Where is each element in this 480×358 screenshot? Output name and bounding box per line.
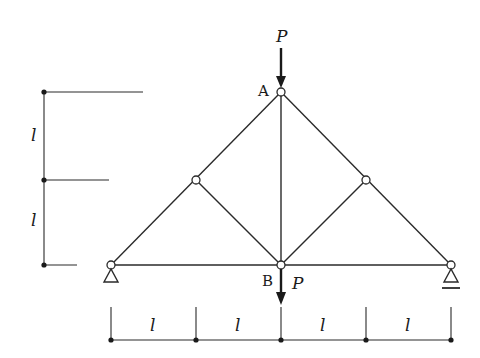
node-A-label: A [257, 82, 269, 100]
load-bottom-label: P [291, 273, 304, 293]
roller-support-icon [444, 269, 458, 282]
horizontal-dimension [111, 307, 451, 340]
truss-diagram: P A B P l l l l l l [0, 0, 480, 358]
dim-horizontal-1: l [150, 315, 155, 335]
dim-horizontal-2: l [235, 315, 240, 335]
load-bottom [276, 269, 286, 305]
dim-horizontal-3: l [320, 315, 325, 335]
joint-B [277, 261, 285, 269]
dim-vertical-2: l [31, 210, 36, 230]
load-top [276, 48, 286, 88]
arrow-down-icon [276, 76, 286, 88]
joint-right-mid [362, 176, 370, 184]
left-diagonal [196, 180, 281, 265]
load-top-label: P [275, 26, 288, 46]
node-B-label: B [262, 272, 273, 290]
dim-horizontal-4: l [405, 315, 410, 335]
vertical-dimension [44, 92, 143, 265]
arrow-down-icon [276, 292, 286, 305]
pin-support-icon [104, 269, 118, 282]
joint-A [277, 88, 285, 96]
joint-left-mid [192, 176, 200, 184]
dim-vertical-1: l [31, 125, 36, 145]
truss-members [111, 92, 451, 265]
right-diagonal [281, 180, 366, 265]
